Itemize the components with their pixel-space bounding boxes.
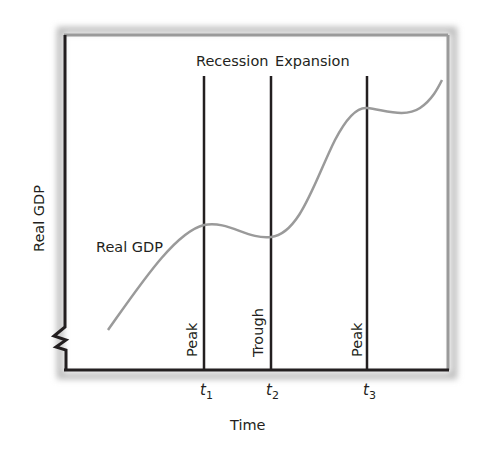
marker-label-trough: Trough	[250, 308, 266, 358]
tick-label-t1: t 1	[200, 381, 213, 402]
x-axis-title: Time	[229, 417, 266, 433]
svg-text:3: 3	[369, 389, 376, 402]
recession-label: Recession	[196, 53, 268, 69]
marker-label-peak-2: Peak	[349, 322, 365, 357]
business-cycle-diagram: Recession Expansion Real GDP Real GDP Pe…	[0, 0, 484, 455]
real-gdp-curve	[108, 80, 442, 330]
y-axis-title: Real GDP	[31, 185, 47, 252]
curve-label: Real GDP	[96, 239, 163, 255]
tick-label-t2: t 2	[266, 381, 279, 402]
expansion-label: Expansion	[275, 53, 350, 69]
marker-label-peak-1: Peak	[184, 322, 200, 357]
tick-label-t3: t 3	[363, 381, 376, 402]
svg-text:1: 1	[206, 389, 213, 402]
svg-text:2: 2	[272, 389, 279, 402]
